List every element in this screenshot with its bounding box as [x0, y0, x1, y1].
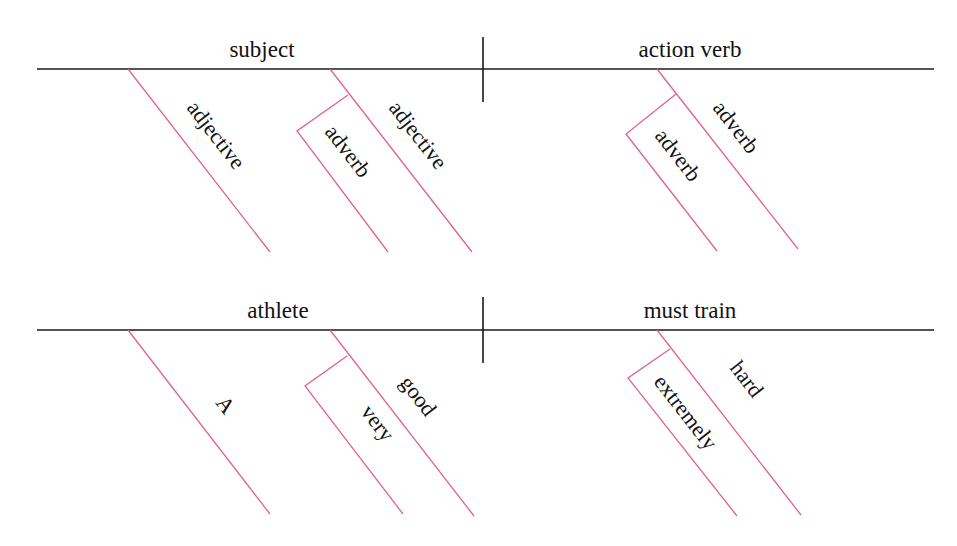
modifier-label: adverb	[708, 96, 764, 159]
sub-modifier-line	[628, 349, 737, 516]
modifier-label: hard	[725, 356, 769, 402]
sub-modifier-label: adverb	[650, 124, 706, 187]
modifier-label: adjective	[182, 96, 250, 174]
modifier-label: adjective	[384, 96, 452, 174]
modifier-label: A	[211, 391, 241, 419]
example-diagram: athlete must train A good very hard extr…	[37, 297, 934, 516]
modifier-line	[128, 330, 270, 514]
sentence-diagrams: subject action verb adjective adjective …	[0, 0, 957, 546]
modifier-label: good	[395, 371, 442, 421]
modifier-line	[128, 69, 270, 252]
template-diagram: subject action verb adjective adjective …	[37, 37, 934, 252]
verb-label: must train	[644, 298, 737, 323]
subject-label: athlete	[247, 298, 308, 323]
subject-label: subject	[229, 37, 295, 62]
modifier-line	[330, 330, 474, 516]
sub-modifier-label: very	[356, 400, 400, 446]
sub-modifier-line	[297, 95, 388, 252]
sub-modifier-label: extremely	[649, 370, 723, 455]
verb-label: action verb	[639, 37, 742, 62]
